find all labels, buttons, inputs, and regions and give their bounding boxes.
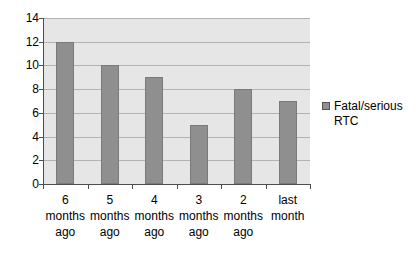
x-tick-label-line: 5 <box>88 192 133 208</box>
x-tick-mark <box>43 185 44 189</box>
x-tick-label-line: 4 <box>132 192 177 208</box>
y-tick-label: 4 <box>3 131 39 143</box>
x-tick-label-line: 3 <box>177 192 222 208</box>
y-tick-label: 0 <box>3 178 39 190</box>
bar[interactable] <box>234 89 252 184</box>
x-tick-label: 5monthsago <box>88 192 133 240</box>
x-tick-mark <box>221 185 222 189</box>
x-tick-label-line: months <box>221 208 266 224</box>
x-tick-mark <box>266 185 267 189</box>
x-tick-label-line: ago <box>88 224 133 240</box>
bar[interactable] <box>145 77 163 184</box>
y-tick-label: 6 <box>3 107 39 119</box>
bar-slot <box>43 18 88 184</box>
x-tick-label: 4monthsago <box>132 192 177 240</box>
bar-slot <box>177 18 222 184</box>
bar[interactable] <box>101 65 119 184</box>
y-tick-label: 8 <box>3 83 39 95</box>
bars-layer <box>43 18 310 184</box>
bar[interactable] <box>279 101 297 184</box>
x-axis: 6monthsago5monthsago4monthsago3monthsago… <box>43 192 310 252</box>
legend: Fatal/serious RTC <box>322 99 416 129</box>
bar-chart: 02468101214 6monthsago5monthsago4monthsa… <box>0 0 416 258</box>
y-tick-label: 12 <box>3 36 39 48</box>
y-tick-mark <box>39 113 43 114</box>
bar-slot <box>266 18 311 184</box>
x-tick-label: 6monthsago <box>43 192 88 240</box>
x-tick-label-line: 2 <box>221 192 266 208</box>
legend-swatch-icon <box>322 102 330 110</box>
bar-slot <box>88 18 133 184</box>
x-tick-mark <box>177 185 178 189</box>
x-tick-mark <box>310 185 311 189</box>
y-tick-label: 10 <box>3 59 39 71</box>
x-tick-label-line: ago <box>221 224 266 240</box>
bar-slot <box>132 18 177 184</box>
bar[interactable] <box>56 42 74 184</box>
y-tick-mark <box>39 89 43 90</box>
y-tick-mark <box>39 137 43 138</box>
y-tick-mark <box>39 160 43 161</box>
x-tick-label-line: ago <box>43 224 88 240</box>
x-tick-label-line: months <box>132 208 177 224</box>
y-tick-mark <box>39 184 43 185</box>
y-tick-label: 14 <box>3 12 39 24</box>
x-tick-label-line: month <box>266 208 311 224</box>
bar[interactable] <box>190 125 208 184</box>
x-tick-label-line: ago <box>132 224 177 240</box>
x-tick-label-line: ago <box>177 224 222 240</box>
legend-label: Fatal/serious RTC <box>334 99 414 129</box>
x-tick-mark <box>132 185 133 189</box>
x-tick-label: 2monthsago <box>221 192 266 240</box>
y-tick-label: 2 <box>3 154 39 166</box>
y-tick-mark <box>39 42 43 43</box>
y-tick-mark <box>39 18 43 19</box>
y-axis: 02468101214 <box>0 0 39 258</box>
x-tick-label-line: 6 <box>43 192 88 208</box>
x-tick-label-line: months <box>88 208 133 224</box>
bar-slot <box>221 18 266 184</box>
x-tick-mark <box>88 185 89 189</box>
x-tick-label-line: last <box>266 192 311 208</box>
x-tick-label: lastmonth <box>266 192 311 224</box>
x-tick-label-line: months <box>177 208 222 224</box>
x-tick-label-line: months <box>43 208 88 224</box>
x-tick-label: 3monthsago <box>177 192 222 240</box>
y-tick-mark <box>39 65 43 66</box>
